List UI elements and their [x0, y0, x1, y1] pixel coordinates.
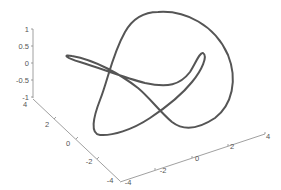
x-tick-label: 4	[266, 132, 270, 141]
z-axis: 1 0.5 0 -0.5 -1	[16, 25, 33, 102]
x-tick-label: -4	[125, 178, 132, 187]
y-tick-label: 2	[45, 120, 49, 129]
z-tick-label: 1	[25, 25, 29, 34]
y-tick-label: 0	[66, 139, 70, 148]
z-tick-label: 0.5	[19, 42, 29, 51]
y-tick-label: 4	[23, 100, 27, 109]
3d-plot: 1 0.5 0 -0.5 -1 4 2 0 -2 -4 -4 -2	[0, 0, 281, 190]
y-tick-label: -4	[107, 176, 114, 185]
z-tick-label: -0.5	[16, 76, 29, 85]
x-tick-label: 0	[195, 154, 199, 163]
y-tick-label: -2	[86, 157, 93, 166]
x-tick-label: -2	[160, 166, 167, 175]
x-axis: -4 -2 0 2 4	[120, 132, 270, 187]
knot-curve	[66, 12, 232, 135]
x-tick-label: 2	[230, 142, 234, 151]
z-tick-label: 0	[25, 59, 29, 68]
y-axis: 4 2 0 -2 -4	[23, 99, 120, 185]
